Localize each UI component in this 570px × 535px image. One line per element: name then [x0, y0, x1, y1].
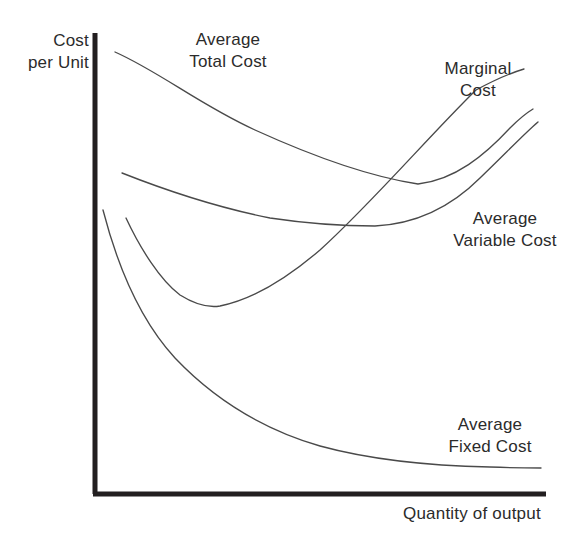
- average-variable-cost-label-line1: Average: [453, 208, 556, 230]
- average-fixed-cost-label-line1: Average: [448, 414, 531, 436]
- average-total-cost-label-line2: Total Cost: [189, 51, 267, 73]
- y-axis-title-line2: per Unit: [28, 52, 89, 74]
- marginal-cost-label: Marginal Cost: [445, 58, 512, 102]
- average-total-cost-label-line1: Average: [189, 29, 267, 51]
- y-axis-title-line1: Cost: [28, 30, 89, 52]
- y-axis-title: Cost per Unit: [28, 30, 89, 74]
- marginal-cost-label-line2: Cost: [445, 80, 512, 102]
- average-variable-cost-label: Average Variable Cost: [453, 208, 556, 252]
- marginal-cost-curve: [126, 69, 524, 307]
- average-fixed-cost-label: Average Fixed Cost: [448, 414, 531, 458]
- average-total-cost-label: Average Total Cost: [189, 29, 267, 73]
- average-variable-cost-label-line2: Variable Cost: [453, 230, 556, 252]
- marginal-cost-label-line1: Marginal: [445, 58, 512, 80]
- cost-curves-figure: Cost per Unit Average Total Cost Margina…: [0, 0, 570, 535]
- average-fixed-cost-label-line2: Fixed Cost: [448, 436, 531, 458]
- x-axis-title: Quantity of output: [403, 503, 541, 525]
